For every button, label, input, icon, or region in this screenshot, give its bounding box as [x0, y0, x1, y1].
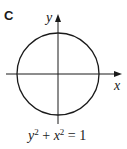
equation-equals: = [64, 128, 79, 143]
x-axis-arrow-icon [114, 71, 122, 77]
equation-plus: + [39, 128, 54, 143]
equation: y2 + x2 = 1 [28, 128, 86, 144]
equation-rhs: 1 [79, 128, 86, 143]
y-axis-label: y [44, 10, 53, 25]
x-axis-label: x [113, 78, 121, 93]
y-axis-arrow-icon [55, 14, 61, 22]
